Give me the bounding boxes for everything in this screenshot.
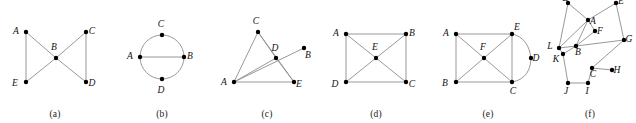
graph-edge-a-BD xyxy=(56,58,86,82)
graph-canvas-c: ABCDE xyxy=(214,0,320,103)
graph-vertex-label-a-C: C xyxy=(89,26,96,36)
graph-vertex-e-F xyxy=(482,56,486,60)
graph-vertex-label-e-B: B xyxy=(442,78,448,88)
graph-vertex-label-f-A: A xyxy=(589,16,596,26)
graph-vertex-label-c-D: D xyxy=(271,43,279,53)
graph-arc-e-0 xyxy=(512,34,531,82)
graph-vertex-d-A xyxy=(344,32,348,36)
graph-edge-a-BC xyxy=(56,32,86,58)
graph-edge-e-BF xyxy=(456,58,484,82)
graph-vertex-label-b-C: C xyxy=(158,19,165,29)
graph-canvas-a: ABCDE xyxy=(0,0,110,103)
graph-vertex-label-a-A: A xyxy=(12,26,19,36)
graph-vertex-label-e-F: F xyxy=(479,42,486,52)
graph-edge-f-BG xyxy=(576,40,624,46)
graph-vertex-label-c-C: C xyxy=(253,16,260,26)
graph-vertex-label-f-C: C xyxy=(590,69,597,79)
panel-caption-b: (b) xyxy=(110,109,214,119)
graph-panel-b: ABCD(b) xyxy=(110,0,214,123)
panel-caption-d: (d) xyxy=(320,109,432,119)
graph-edge-a-BE xyxy=(26,58,56,82)
graph-vertex-d-C xyxy=(404,80,408,84)
graph-vertex-label-c-B: B xyxy=(305,50,311,60)
graph-edge-f-DA xyxy=(568,3,588,20)
graph-vertex-label-e-C: C xyxy=(510,86,517,96)
graph-vertex-label-b-D: D xyxy=(157,85,165,95)
graph-panel-c: ABCDE(c) xyxy=(214,0,320,123)
graph-vertex-a-D xyxy=(84,80,88,84)
graph-panel-e: AEBCFD(e) xyxy=(432,0,544,123)
graph-vertex-label-e-D: D xyxy=(532,53,540,63)
graph-vertex-label-a-D: D xyxy=(88,78,96,88)
graph-edge-f-EG xyxy=(616,3,624,40)
graph-vertex-e-E xyxy=(510,32,514,36)
graph-figure: ABCDE(a)ABCD(b)ABCDE(c)ABCDE(d)AEBCFD(e)… xyxy=(0,0,636,123)
graph-edge-d-DE xyxy=(346,58,376,82)
graph-edge-e-CF xyxy=(484,58,512,82)
panel-caption-a: (a) xyxy=(0,109,110,119)
graph-vertex-f-I xyxy=(586,81,590,85)
graph-vertex-d-D xyxy=(344,80,348,84)
graph-vertex-label-a-B: B xyxy=(51,42,57,52)
graph-vertex-label-f-L: L xyxy=(546,41,552,51)
graph-vertex-e-C xyxy=(510,80,514,84)
graph-vertex-label-f-I: I xyxy=(584,86,589,96)
graph-vertex-label-f-E: E xyxy=(617,0,624,6)
graph-vertex-label-e-A: A xyxy=(442,28,449,38)
graph-vertex-e-B xyxy=(454,80,458,84)
graph-edge-c-AC xyxy=(234,32,258,82)
graph-vertex-label-e-E: E xyxy=(513,22,520,32)
graph-vertex-e-A xyxy=(454,32,458,36)
graph-vertex-b-C xyxy=(160,33,164,37)
graph-vertex-label-f-H: H xyxy=(613,65,622,75)
graph-vertex-label-d-C: C xyxy=(409,79,416,89)
graph-edge-f-DL xyxy=(559,3,568,48)
graph-canvas-e: AEBCFD xyxy=(432,0,544,103)
graph-vertex-b-B xyxy=(182,55,186,59)
graph-edge-d-BE xyxy=(376,34,406,58)
graph-edge-c-AD xyxy=(234,58,276,82)
graph-vertex-d-B xyxy=(404,32,408,36)
graph-edge-f-JK xyxy=(563,54,568,83)
graph-vertex-a-A xyxy=(24,30,28,34)
graph-vertex-label-c-E: E xyxy=(295,79,302,89)
graph-vertex-a-B xyxy=(54,56,58,60)
graph-vertex-f-L xyxy=(557,46,561,50)
panel-caption-e: (e) xyxy=(432,109,544,119)
graph-vertex-label-b-B: B xyxy=(187,51,193,61)
graph-vertex-f-J xyxy=(566,81,570,85)
graph-vertex-label-f-B: B xyxy=(575,47,581,57)
graph-vertex-c-C xyxy=(256,30,260,34)
graph-vertex-b-D xyxy=(160,77,164,81)
graph-edge-c-DE xyxy=(276,58,294,82)
graph-edge-c-AB xyxy=(234,48,304,82)
graph-vertex-label-f-J: J xyxy=(564,86,569,96)
graph-edge-f-AB xyxy=(576,20,588,46)
graph-vertex-label-f-D: D xyxy=(562,0,570,3)
panel-caption-c: (c) xyxy=(214,109,320,119)
graph-vertex-label-c-A: A xyxy=(220,77,227,87)
graph-vertex-d-E xyxy=(374,56,378,60)
graph-vertex-label-d-D: D xyxy=(331,79,339,89)
graph-vertex-label-d-B: B xyxy=(409,28,415,38)
graph-vertex-label-f-K: K xyxy=(552,54,560,64)
graph-canvas-b: ABCD xyxy=(110,0,214,103)
graph-vertex-label-f-G: G xyxy=(626,34,633,44)
graph-panel-f: DEAFGLBKCHJI(f) xyxy=(544,0,636,123)
graph-vertex-b-A xyxy=(138,55,142,59)
graph-vertex-label-d-E: E xyxy=(371,42,378,52)
graph-panel-d: ABCDE(d) xyxy=(320,0,432,123)
graph-vertex-label-d-A: A xyxy=(332,28,339,38)
graph-vertex-c-D xyxy=(274,56,278,60)
graph-canvas-d: ABCDE xyxy=(320,0,432,103)
graph-vertex-a-C xyxy=(84,30,88,34)
graph-vertex-label-f-F: F xyxy=(596,26,603,36)
graph-vertex-label-a-E: E xyxy=(11,78,18,88)
graph-vertex-f-K xyxy=(561,52,565,56)
graph-edge-d-CE xyxy=(376,58,406,82)
graph-vertex-a-E xyxy=(24,80,28,84)
graph-panel-a: ABCDE(a) xyxy=(0,0,110,123)
panel-caption-f: (f) xyxy=(544,109,636,119)
graph-edge-f-GC xyxy=(592,40,624,68)
graph-edge-e-EF xyxy=(484,34,512,58)
